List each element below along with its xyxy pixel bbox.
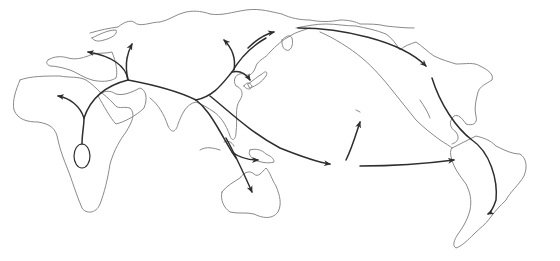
coast-india (150, 98, 214, 131)
route-hawaii (346, 122, 360, 160)
route-beringia (248, 32, 274, 48)
coast-africa (13, 80, 133, 212)
coast-north-america (296, 24, 492, 144)
route-north-america (298, 28, 426, 66)
coast-south-america (451, 136, 527, 248)
coast-arabia (98, 88, 146, 124)
coast-north-america-west (320, 32, 452, 148)
coast-hawaii (356, 110, 360, 112)
route-australia (226, 138, 252, 192)
route-europe-north (126, 44, 132, 80)
route-africa-trunk (82, 118, 84, 144)
route-out-of-africa (84, 80, 128, 118)
route-asia-north (196, 38, 266, 100)
route-north-africa (58, 96, 84, 118)
coast-new-guinea (249, 149, 274, 163)
route-pacific-to-south-america (360, 160, 454, 166)
coast-baja (420, 100, 430, 118)
route-siberia (224, 40, 235, 70)
route-south-america (432, 78, 496, 214)
route-europe-west (88, 52, 128, 80)
coast-australia (221, 168, 280, 218)
origin-east-africa (74, 144, 90, 168)
coast-eurasia-north (90, 9, 414, 33)
coastlines (13, 9, 526, 248)
migration-map (0, 0, 560, 261)
route-to-asia (128, 80, 196, 100)
